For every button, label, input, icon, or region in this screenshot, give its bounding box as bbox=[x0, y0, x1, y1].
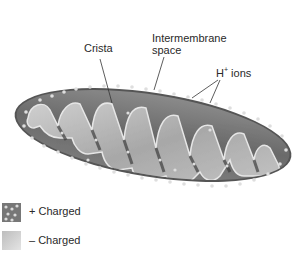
h-ions-label: H+ ions bbox=[216, 64, 251, 79]
legend-plus-charged: + Charged bbox=[29, 205, 81, 217]
h-ion-leader-1 bbox=[192, 80, 218, 98]
intermembrane-line2: space bbox=[152, 44, 227, 56]
crista-label: Crista bbox=[84, 42, 113, 54]
intermembrane-line1: Intermembrane bbox=[152, 32, 227, 44]
legend-plus-label: + Charged bbox=[29, 205, 81, 217]
intermembrane-leader bbox=[154, 57, 164, 90]
legend-minus-charged: – Charged bbox=[29, 234, 80, 246]
h-ions-rest: ions bbox=[228, 67, 251, 79]
intermembrane-space-label: Intermembrane space bbox=[152, 32, 227, 56]
legend-minus-swatch bbox=[2, 231, 21, 250]
h-ions-base: H bbox=[216, 67, 224, 79]
legend-minus-label: – Charged bbox=[29, 234, 80, 246]
h-ion-leader-2 bbox=[210, 80, 220, 103]
legend-plus-swatch bbox=[2, 203, 21, 222]
